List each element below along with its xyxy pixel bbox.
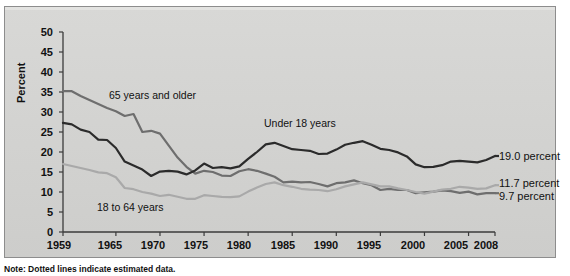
x-tick-label: 1995 (357, 239, 381, 251)
y-tick-label: 45 (27, 46, 53, 58)
line-chart-svg (63, 32, 495, 237)
axes (59, 32, 495, 236)
y-tick-label: 20 (27, 146, 53, 158)
y-tick-label: 40 (27, 66, 53, 78)
y-tick-label: 5 (27, 206, 53, 218)
x-tick-label: 2000 (401, 239, 425, 251)
series-line (63, 164, 495, 199)
series-paths (63, 91, 495, 199)
end-label-under18: 19.0 percent (499, 150, 560, 162)
x-tick-label: 1980 (227, 239, 251, 251)
panel-top-highlight (5, 7, 555, 10)
x-tick-label: 1965 (98, 239, 122, 251)
y-tick-label: 30 (27, 106, 53, 118)
end-label-adults: 11.7 percent (499, 177, 559, 189)
y-tick-label: 0 (27, 226, 53, 238)
y-tick-label: 35 (27, 86, 53, 98)
chart-panel: Percent 50 45 40 35 30 25 20 15 10 5 0 1… (4, 6, 556, 258)
x-tick-label: 2005 (444, 239, 468, 251)
end-label-older: 9.7 percent (499, 190, 554, 202)
chart-note: Note: Dotted lines indicate estimated da… (4, 264, 175, 274)
x-tick-label: 1970 (141, 239, 165, 251)
x-tick-label: 1975 (184, 239, 208, 251)
series-line (63, 123, 495, 176)
x-tick-label: 1990 (314, 239, 338, 251)
y-tick-label: 25 (27, 126, 53, 138)
x-tick-label: 1959 (47, 239, 71, 251)
figure-container: Percent 50 45 40 35 30 25 20 15 10 5 0 1… (0, 0, 570, 276)
y-tick-label: 10 (27, 186, 53, 198)
x-tick-label: 2008 (474, 239, 498, 251)
x-tick-label: 1985 (271, 239, 295, 251)
y-tick-label: 15 (27, 166, 53, 178)
y-axis-title: Percent (15, 43, 27, 103)
series-line (63, 91, 495, 194)
plot-area (63, 32, 495, 232)
y-tick-label: 50 (27, 26, 53, 38)
